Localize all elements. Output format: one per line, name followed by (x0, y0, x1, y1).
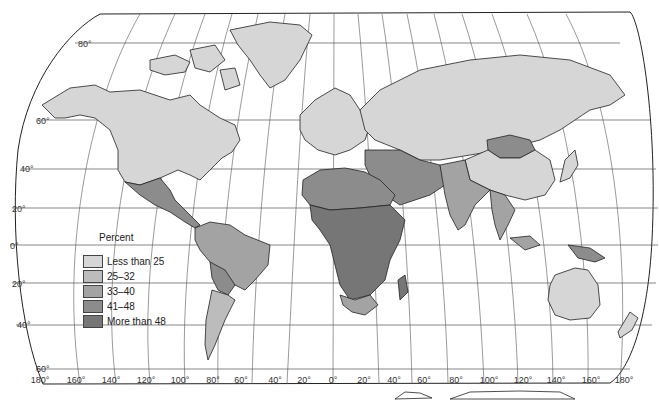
legend-label: 33–40 (107, 286, 135, 297)
legend-swatch (83, 300, 103, 313)
legend-swatch (83, 315, 103, 328)
lon-label-40e: 40° (387, 376, 401, 385)
legend-swatch (83, 255, 103, 268)
lon-label-20e: 20° (357, 376, 371, 385)
lat-label-60s: 60° (36, 365, 50, 374)
legend-item: Less than 25 (83, 254, 164, 268)
australia (548, 268, 600, 320)
lon-label-80w: 80° (206, 376, 220, 385)
legend-label: 25–32 (107, 271, 135, 282)
lon-label-20w: 20° (297, 376, 311, 385)
lon-label-100w: 100° (171, 376, 190, 385)
world-map (0, 0, 659, 411)
legend-label: Less than 25 (107, 256, 164, 267)
antarctica-fragment (395, 392, 432, 399)
lon-label-80e: 80° (449, 376, 463, 385)
lat-label-80n: 80° (78, 40, 92, 49)
lat-label-0: 0° (10, 242, 19, 251)
legend-item: 33–40 (83, 284, 135, 298)
lon-label-140e: 140° (547, 376, 566, 385)
lon-label-120w: 120° (137, 376, 156, 385)
lon-label-160w: 160° (67, 376, 86, 385)
lon-label-0: 0° (329, 376, 338, 385)
lon-label-40w: 40° (268, 376, 282, 385)
legend-item: 25–32 (83, 269, 135, 283)
lon-label-180w: 180° (31, 376, 50, 385)
legend-label: More than 48 (107, 316, 166, 327)
lat-label-60n: 60° (36, 117, 50, 126)
lon-label-180e: 180° (615, 376, 634, 385)
lat-label-40n: 40° (20, 165, 34, 174)
lon-label-140w: 140° (102, 376, 121, 385)
legend-swatch (83, 285, 103, 298)
legend-swatch (83, 270, 103, 283)
lat-label-40s: 40° (17, 321, 31, 330)
lon-label-100e: 100° (480, 376, 499, 385)
legend-label: 41–48 (107, 301, 135, 312)
lat-label-20s: 20° (12, 280, 26, 289)
legend-item: 41–48 (83, 299, 135, 313)
lon-label-120e: 120° (514, 376, 533, 385)
lat-label-20n: 20° (12, 205, 26, 214)
legend-title: Percent (99, 232, 133, 243)
legend-item: More than 48 (83, 314, 166, 328)
lon-label-60w: 60° (234, 376, 248, 385)
lon-label-160e: 160° (582, 376, 601, 385)
lon-label-60e: 60° (417, 376, 431, 385)
